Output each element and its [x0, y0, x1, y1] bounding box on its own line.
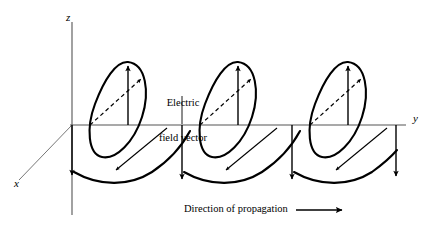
electric-field-vector-label-line1: Electric	[152, 97, 214, 109]
x-axis-line	[19, 125, 72, 180]
dashed-vector-1	[90, 79, 141, 125]
helix-trough-3	[294, 150, 397, 183]
y-axis-label: y	[413, 112, 418, 124]
electric-field-vector-label: Electric field vector	[152, 73, 214, 167]
propagation-direction-label: Direction of propagation	[184, 203, 288, 215]
wave-diagram-figure: z y x Electric field vector Direction of…	[0, 0, 435, 229]
electric-field-vector-label-line2: field vector	[152, 132, 214, 144]
dashed-vector-group	[90, 79, 361, 125]
dashed-vector-3	[310, 79, 361, 125]
z-axis-label: z	[66, 11, 70, 23]
x-axis-label: x	[14, 177, 19, 189]
diagram-canvas	[0, 0, 435, 229]
helix-loop-1	[90, 62, 146, 157]
helix-loop-3	[310, 62, 366, 157]
